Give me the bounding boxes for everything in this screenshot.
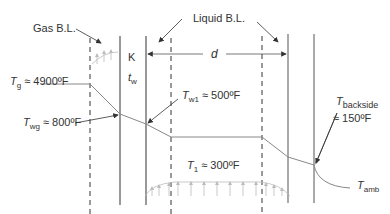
gas-flux-arrows [92,51,118,64]
t1-label: T1 ≈ 300ºF [187,160,239,171]
tw1-label: Tw1 ≈ 500ºF [182,90,240,101]
d-label: d [211,48,218,60]
wall-thickness-label: tw [128,72,137,83]
tamb-label: Tamb [357,180,379,191]
conductivity-label: K [128,52,135,63]
tw1-arrow [148,99,178,123]
coolant-flow-arrows [145,182,290,196]
ambient-decay-curve [314,165,350,188]
twg-label: Twg ≈ 800ºF [23,117,81,128]
temperature-profile [42,84,314,165]
gas-bl-label: Gas B.L. [33,23,76,34]
tg-label: Tg ≈ 4900ºF [10,76,69,87]
twg-arrow [75,115,118,123]
gas-bl-arrow [76,29,101,43]
tbackside-label: Tbackside [336,96,378,107]
liquid-bl-label: Liquid B.L. [193,13,245,24]
tbackside-value: ≈ 150ºF [333,113,371,124]
liquid-bl-arrow-right [257,22,278,42]
